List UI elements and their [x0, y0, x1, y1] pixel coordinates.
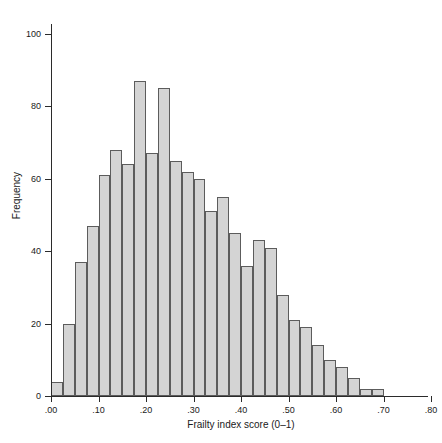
histogram-bar: [158, 88, 170, 396]
histogram-bar: [205, 211, 217, 396]
histogram-bar: [300, 327, 312, 396]
histogram-bar: [372, 389, 384, 396]
x-axis-tick: [194, 396, 195, 402]
histogram-bar: [253, 240, 265, 396]
y-axis-tick: [45, 106, 51, 107]
histogram-bar: [182, 172, 194, 396]
histogram-bar: [170, 161, 182, 396]
histogram-bar: [110, 150, 122, 396]
x-axis-tick-label: .60: [316, 405, 356, 415]
x-axis-tick: [51, 396, 52, 402]
y-axis-tick: [45, 34, 51, 35]
x-axis-tick-label: .40: [221, 405, 261, 415]
y-axis-tick-label: 40: [0, 247, 41, 256]
histogram-bar: [99, 175, 111, 396]
x-axis-tick: [289, 396, 290, 402]
x-axis-tick-label: .80: [411, 405, 442, 415]
histogram-bar: [229, 233, 241, 396]
histogram-bar: [194, 179, 206, 396]
histogram-bar: [75, 262, 87, 396]
x-axis-tick: [99, 396, 100, 402]
histogram-bar: [336, 367, 348, 396]
histogram-bar: [217, 197, 229, 396]
histogram-bar: [87, 226, 99, 396]
x-axis-tick-label: .20: [126, 405, 166, 415]
x-axis-tick-label: .10: [79, 405, 119, 415]
y-axis-tick-label: 80: [0, 102, 41, 111]
histogram-bar: [265, 248, 277, 396]
histogram-bar: [277, 295, 289, 396]
y-axis-tick-label: 0: [0, 392, 41, 401]
x-axis-title: Frailty index score (0–1): [51, 419, 431, 430]
y-axis-tick: [45, 179, 51, 180]
histogram-bar: [63, 324, 75, 396]
histogram-bar: [289, 320, 301, 396]
y-axis-tick: [45, 324, 51, 325]
y-axis-tick: [45, 251, 51, 252]
histogram-bar: [146, 153, 158, 396]
histogram-bar: [312, 345, 324, 396]
y-axis-line: [51, 24, 52, 397]
x-axis-tick-label: .30: [174, 405, 214, 415]
x-axis-tick: [336, 396, 337, 402]
x-axis-tick-label: .50: [269, 405, 309, 415]
histogram-bar: [360, 389, 372, 396]
histogram-bar: [134, 81, 146, 396]
y-axis-title: Frequency: [11, 156, 22, 236]
histogram-bar: [241, 266, 253, 396]
y-axis-tick-label: 100: [0, 30, 41, 39]
x-axis-tick: [431, 396, 432, 402]
x-axis-tick-label: .70: [364, 405, 404, 415]
histogram-bar: [348, 378, 360, 396]
histogram-bar: [122, 164, 134, 396]
x-axis-tick-label: .00: [31, 405, 71, 415]
x-axis-tick: [384, 396, 385, 402]
x-axis-tick: [146, 396, 147, 402]
x-axis-tick: [241, 396, 242, 402]
histogram-bar: [324, 360, 336, 396]
x-axis-line: [51, 396, 428, 397]
y-axis-tick-label: 20: [0, 320, 41, 329]
histogram-bar: [51, 382, 63, 396]
